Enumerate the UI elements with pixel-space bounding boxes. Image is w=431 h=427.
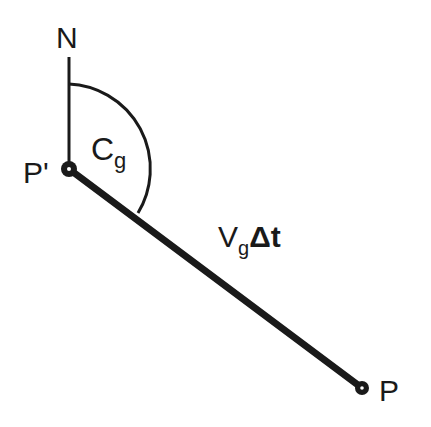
course-diagram: N P' P Cg VgΔt xyxy=(0,0,431,427)
end-point-label: P xyxy=(379,374,399,407)
angle-label-main: C xyxy=(91,131,114,167)
segment-label-subscript: g xyxy=(238,237,249,259)
segment-label-suffix: Δt xyxy=(249,220,281,253)
end-point-center xyxy=(360,386,364,390)
track-line xyxy=(69,169,362,388)
start-point-center xyxy=(67,167,71,171)
segment-label: VgΔt xyxy=(218,220,281,259)
angle-label-subscript: g xyxy=(114,148,126,173)
diagram-canvas: N P' P Cg VgΔt xyxy=(0,0,431,427)
segment-label-main: V xyxy=(218,220,238,253)
north-label: N xyxy=(56,21,78,54)
start-point-label: P' xyxy=(23,156,49,189)
angle-label: Cg xyxy=(91,131,126,173)
